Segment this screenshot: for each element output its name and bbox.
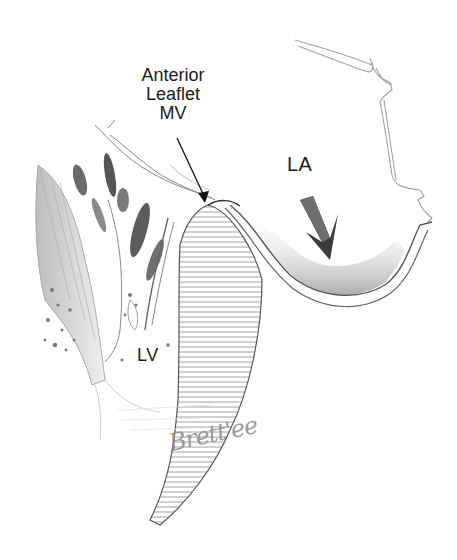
left-atrium-label: LA: [287, 154, 312, 175]
anterior-leaflet-mv-label: Anterior Leaflet MV: [128, 66, 218, 123]
mitral-valve-illustration: Anterior Leaflet MV LA LV Brett'ee: [0, 0, 457, 560]
left-ventricle-label: LV: [137, 346, 159, 365]
leaflet-pointer: [177, 138, 209, 203]
label-line-2: Leaflet: [128, 85, 218, 104]
flow-arrow-icon: [300, 196, 338, 260]
illustration-drawing: [0, 0, 457, 560]
label-line-3: MV: [128, 104, 218, 123]
label-line-1: Anterior: [128, 66, 218, 85]
left-atrium-wall: [295, 40, 432, 222]
